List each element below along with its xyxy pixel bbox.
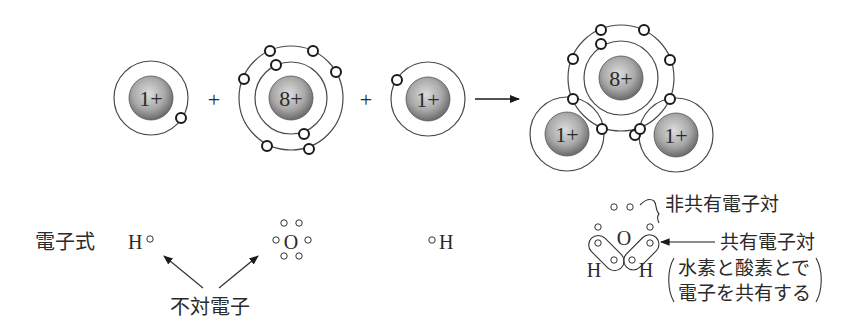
lewis-h-left-symbol: H (587, 259, 601, 281)
unpaired-electron-label: 不対電子 (170, 295, 250, 319)
electron-formula-label: 電子式 (35, 230, 95, 254)
unpaired-electron-dot (429, 237, 435, 243)
water-molecule-model: 8+ 1+ 1+ (530, 25, 713, 172)
oxygen-atom: 8+ (239, 46, 343, 154)
nucleus-label: 1+ (416, 87, 439, 112)
brace-icon (640, 200, 659, 223)
pointer-arrow-icon (164, 256, 203, 288)
plus-sign: + (360, 87, 372, 112)
lone-pair-label: 非共有電子対 (665, 193, 779, 215)
pointer-arrow-icon (219, 256, 258, 288)
lewis-o-symbol: O (617, 227, 631, 249)
hydrogen-atom-left: 1+ (114, 61, 188, 135)
h-right-symbol: H (439, 231, 453, 253)
lewis-h-right-symbol: H (639, 259, 653, 281)
electron (176, 113, 186, 123)
electron (392, 75, 402, 85)
shared-pair-label: 共有電子対 (720, 231, 815, 253)
plus-sign: + (208, 87, 220, 112)
o-symbol: O (284, 231, 298, 253)
hydrogen-atom-right: 1+ (391, 62, 465, 136)
nucleus-label: 1+ (139, 86, 162, 111)
note-line-2: 電子を共有する (678, 282, 811, 304)
nucleus-label: 8+ (279, 86, 302, 111)
note-line-1: 水素と酸素とで (678, 257, 810, 279)
unpaired-electron-dot (147, 236, 153, 242)
hydrogen-right-label: 1+ (664, 123, 687, 148)
water-formation-diagram: 1+ + 8+ + 1+ 8+ (0, 0, 849, 336)
left-paren (669, 258, 674, 302)
water-lewis-structure: O H H 非共有電子対 共有電子対 水素と酸素とで 電子を共有する (585, 193, 821, 304)
hydrogen-left-label: 1+ (555, 122, 578, 147)
oxygen-nucleus-label: 8+ (609, 66, 632, 91)
right-paren (816, 258, 821, 302)
h-left-symbol: H (128, 231, 142, 253)
